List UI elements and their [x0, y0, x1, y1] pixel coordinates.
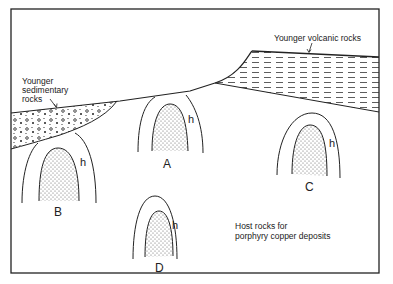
- sedimentary-rocks-unit: [11, 101, 117, 149]
- intrusion-d-label: D: [155, 262, 164, 274]
- sedimentary-label-line3: rocks: [22, 95, 42, 105]
- intrusion-b: [22, 133, 96, 203]
- volcanic-rocks-unit: [215, 51, 379, 112]
- intrusion-a-halo-label: h: [188, 114, 194, 125]
- intrusion-c-halo-label: h: [329, 138, 335, 149]
- intrusion-c-label: C: [305, 181, 314, 193]
- host-rocks-label-line2: porphyry copper deposits: [235, 232, 330, 242]
- intrusion-b-label: B: [54, 206, 62, 218]
- intrusion-d-halo-label: h: [172, 220, 178, 231]
- intrusion-b-halo-label: h: [80, 157, 86, 168]
- volcanic-rocks-label: Younger volcanic rocks: [274, 34, 361, 44]
- intrusion-d: [133, 196, 177, 259]
- intrusion-a-label: A: [163, 158, 171, 170]
